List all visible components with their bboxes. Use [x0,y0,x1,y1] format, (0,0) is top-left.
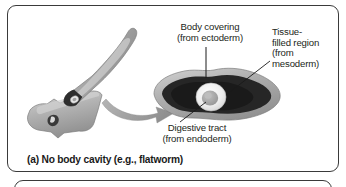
panel-a-caption: (a) No body cavity (e.g., flatworm) [27,154,183,165]
curved-arrow-icon [102,99,174,123]
leader-line-tissue-filled [226,61,270,95]
flatworm-cross-section-icon [154,68,280,120]
panel-b-partial [14,180,332,187]
leader-line-digestive-tract [180,102,206,122]
label-digestive-tract: Digestive tract (from endoderm) [142,123,252,144]
panel-a-no-body-cavity: Body covering (from ectoderm) Tissue- fi… [7,5,339,172]
flatworm-cut-body-icon [64,28,137,106]
flatworm-body-icon [27,91,102,138]
figure-root: Body covering (from ectoderm) Tissue- fi… [0,0,346,187]
label-tissue-filled-region: Tissue- filled region (from mesoderm) [272,27,342,69]
label-body-covering: Body covering (from ectoderm) [158,22,262,43]
